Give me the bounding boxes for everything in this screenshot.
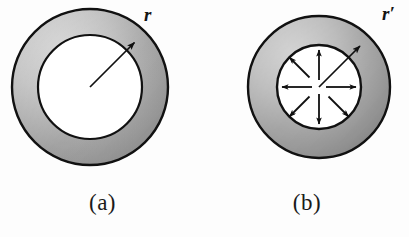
caption-b: (b) [205,190,409,216]
radius-label-r: r [144,4,151,26]
panel-b: r′ (b) [205,0,409,237]
figure-container: r (a) [0,0,409,237]
panel-a: r (a) [0,0,205,237]
radius-label-r-prime: r′ [382,3,395,25]
caption-a: (a) [0,190,205,216]
